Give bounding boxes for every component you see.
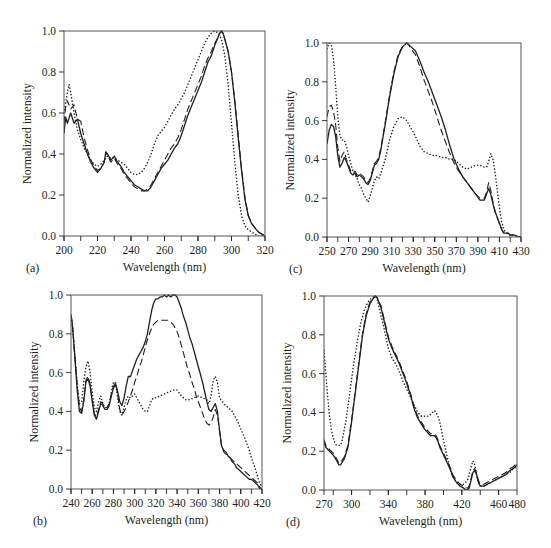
y-tick-label: 0.6 — [49, 367, 64, 379]
panel-label: (b) — [33, 514, 47, 528]
series-group — [327, 43, 521, 237]
series-solid-line — [71, 295, 262, 489]
panel-label: (a) — [26, 261, 39, 275]
panel-b: 2402602803003203403603804004200.00.20.40… — [27, 289, 271, 528]
x-tick-label: 420 — [253, 497, 271, 509]
y-tick-label: 0.4 — [302, 406, 317, 418]
x-tick-label: 460 — [490, 498, 508, 510]
x-tick-label: 240 — [122, 244, 140, 256]
x-tick-label: 430 — [512, 245, 530, 257]
x-axis-label: Wavelength (nm) — [125, 513, 208, 527]
plot-frame — [64, 31, 265, 236]
y-tick-label: 0.6 — [305, 115, 320, 127]
x-tick-label: 310 — [383, 245, 401, 257]
x-tick-label: 410 — [491, 245, 509, 257]
figure-canvas: 2002202402602803003200.00.20.40.60.81.0W… — [0, 0, 551, 548]
x-tick-label: 300 — [343, 498, 361, 510]
x-tick-label: 320 — [147, 497, 165, 509]
x-axis-label: Wavelength (nm) — [382, 261, 465, 275]
x-tick-label: 270 — [315, 498, 333, 510]
x-tick-label: 400 — [232, 497, 250, 509]
y-tick-label: 0.2 — [42, 189, 57, 201]
series-dashed-line — [324, 296, 517, 488]
series-solid-line — [324, 296, 517, 490]
panel-label: (d) — [286, 515, 300, 529]
y-tick-label: 1.0 — [42, 25, 57, 37]
panel-a: 2002202402602803003200.00.20.40.60.81.0W… — [20, 25, 274, 275]
y-tick-label: 1.0 — [305, 37, 320, 49]
y-tick-label: 0.2 — [305, 192, 320, 204]
x-tick-label: 380 — [416, 498, 434, 510]
x-tick-label: 380 — [211, 497, 229, 509]
x-tick-label: 370 — [448, 245, 466, 257]
y-tick-label: 0.0 — [305, 231, 320, 243]
y-tick-label: 1.0 — [302, 290, 317, 302]
y-tick-label: 0.8 — [305, 76, 320, 88]
y-axis-label: Normalized intensity — [20, 83, 34, 184]
plot-frame — [324, 296, 517, 490]
x-tick-label: 280 — [105, 497, 123, 509]
x-tick-label: 330 — [405, 245, 423, 257]
x-tick-label: 360 — [190, 497, 208, 509]
y-tick-label: 0.0 — [49, 483, 64, 495]
y-tick-label: 0.4 — [305, 153, 320, 165]
y-tick-label: 0.0 — [42, 230, 57, 242]
x-tick-label: 340 — [380, 498, 398, 510]
y-tick-label: 0.0 — [302, 484, 317, 496]
y-tick-label: 1.0 — [49, 289, 64, 301]
series-group — [64, 31, 265, 236]
y-axis-label: Normalized intensity — [283, 90, 297, 191]
series-dashed-line — [64, 31, 265, 236]
y-tick-label: 0.4 — [49, 405, 64, 417]
x-tick-label: 390 — [469, 245, 487, 257]
series-dotted-line — [324, 296, 517, 486]
x-tick-label: 260 — [84, 497, 102, 509]
y-tick-label: 0.2 — [49, 444, 64, 456]
plot-frame — [71, 295, 262, 489]
x-tick-label: 250 — [318, 245, 336, 257]
series-group — [324, 296, 517, 490]
series-solid-line — [64, 31, 265, 236]
x-tick-label: 340 — [168, 497, 186, 509]
x-tick-label: 420 — [453, 498, 471, 510]
x-tick-label: 200 — [55, 244, 73, 256]
y-axis-label: Normalized intensity — [280, 343, 294, 444]
x-axis-label: Wavelength (nm) — [123, 260, 206, 274]
series-dotted-line — [71, 318, 262, 487]
series-dotted-line — [64, 31, 265, 236]
y-tick-label: 0.8 — [49, 328, 64, 340]
panel-d: 2703003403804204604800.00.20.40.60.81.0W… — [280, 290, 526, 529]
x-tick-label: 480 — [508, 498, 526, 510]
x-tick-label: 300 — [223, 244, 241, 256]
y-tick-label: 0.4 — [42, 148, 57, 160]
x-tick-label: 320 — [256, 244, 274, 256]
x-tick-label: 260 — [156, 244, 174, 256]
series-group — [71, 295, 262, 489]
y-tick-label: 0.6 — [302, 368, 317, 380]
x-tick-label: 270 — [340, 245, 358, 257]
x-tick-label: 300 — [126, 497, 144, 509]
y-tick-label: 0.2 — [302, 445, 317, 457]
x-tick-label: 350 — [426, 245, 444, 257]
x-tick-label: 240 — [62, 497, 80, 509]
y-tick-label: 0.6 — [42, 107, 57, 119]
x-tick-label: 220 — [89, 244, 107, 256]
y-tick-label: 0.8 — [302, 329, 317, 341]
series-solid-line — [327, 43, 521, 237]
y-tick-label: 0.8 — [42, 66, 57, 78]
x-tick-label: 290 — [361, 245, 379, 257]
panel-c: 2502702903103303503703904104300.00.20.40… — [283, 37, 530, 276]
y-axis-label: Normalized intensity — [27, 342, 41, 443]
panel-label: (c) — [289, 262, 302, 276]
x-tick-label: 280 — [189, 244, 207, 256]
x-axis-label: Wavelength (nm) — [379, 514, 462, 528]
